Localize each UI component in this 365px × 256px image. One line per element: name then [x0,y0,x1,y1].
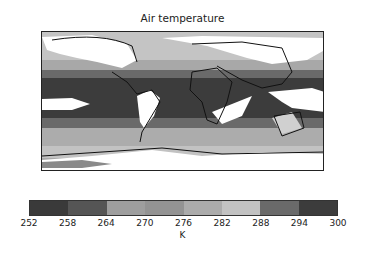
colorbar-segment [222,201,260,215]
colorbar-tick: 270 [136,218,153,228]
colorbar-segment [184,201,222,215]
colorbar [29,200,338,216]
colorbar-tick: 264 [98,218,115,228]
colorbar-tick: 252 [20,218,37,228]
colorbar-label: K [0,230,365,240]
colorbar-segment [68,201,106,215]
colorbar-segment [145,201,183,215]
colorbar-segment [299,201,337,215]
temperature-map [41,31,324,171]
colorbar-segment [30,201,68,215]
colorbar-segment [107,201,145,215]
colorbar-tick: 294 [291,218,308,228]
colorbar-tick: 276 [175,218,192,228]
colorbar-tick: 258 [59,218,76,228]
colorbar-tick: 300 [329,218,346,228]
chart-title: Air temperature [0,12,365,24]
colorbar-tick: 282 [214,218,231,228]
map-graphic [42,32,324,171]
colorbar-segment [260,201,298,215]
colorbar-tick: 288 [252,218,269,228]
